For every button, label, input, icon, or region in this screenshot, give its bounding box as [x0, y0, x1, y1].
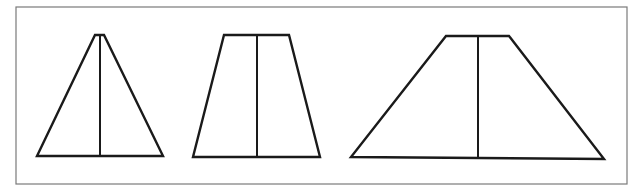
diagram-canvas	[0, 0, 639, 192]
shapes-group	[37, 35, 604, 159]
